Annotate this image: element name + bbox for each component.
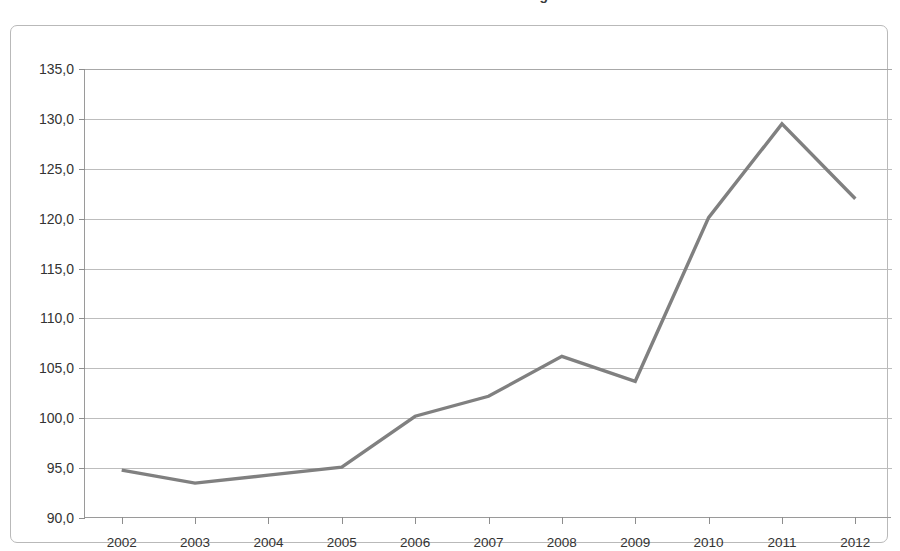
x-axis-tick [342, 517, 343, 524]
x-axis-label: 2012 [840, 535, 870, 550]
x-axis-tick [855, 517, 856, 524]
y-axis-label: 95,0 [47, 460, 74, 476]
x-axis-label: 2009 [620, 535, 650, 550]
x-axis-label: 2007 [473, 535, 503, 550]
series-line-chart [85, 69, 892, 518]
x-axis-label: 2003 [180, 535, 210, 550]
y-axis-label: 105,0 [39, 360, 74, 376]
series-polyline [122, 124, 856, 483]
x-axis-tick [635, 517, 636, 524]
y-axis-tick [79, 518, 85, 519]
y-axis-label: 125,0 [39, 161, 74, 177]
y-axis-label: 130,0 [39, 111, 74, 127]
x-axis-label: 2002 [107, 535, 137, 550]
plot-area: 135,0130,0125,0120,0115,0110,0105,0100,0… [84, 69, 891, 518]
y-axis-label: 115,0 [40, 261, 74, 277]
x-axis-tick [268, 517, 269, 524]
x-axis-tick [489, 517, 490, 524]
x-axis-label: 2008 [547, 535, 577, 550]
x-axis-tick [562, 517, 563, 524]
chart-outer-frame: 135,0130,0125,0120,0115,0110,0105,0100,0… [10, 25, 888, 543]
x-axis-label: 2011 [767, 535, 796, 550]
x-axis-label: 2004 [253, 535, 283, 550]
y-axis-label: 90,0 [47, 510, 74, 526]
y-axis-label: 120,0 [39, 211, 74, 227]
x-axis-tick [122, 517, 123, 524]
y-axis-label: 135,0 [39, 61, 74, 77]
x-axis-tick [782, 517, 783, 524]
y-axis-label: 100,0 [39, 410, 74, 426]
x-axis-tick [415, 517, 416, 524]
x-axis-label: 2005 [327, 535, 357, 550]
chart-title: Indice des termes de l'échange [0, 0, 900, 3]
x-axis-tick [709, 517, 710, 524]
y-axis-label: 110,0 [40, 310, 74, 326]
x-axis-label: 2010 [694, 535, 724, 550]
x-axis-label: 2006 [400, 535, 430, 550]
x-axis-tick [195, 517, 196, 524]
